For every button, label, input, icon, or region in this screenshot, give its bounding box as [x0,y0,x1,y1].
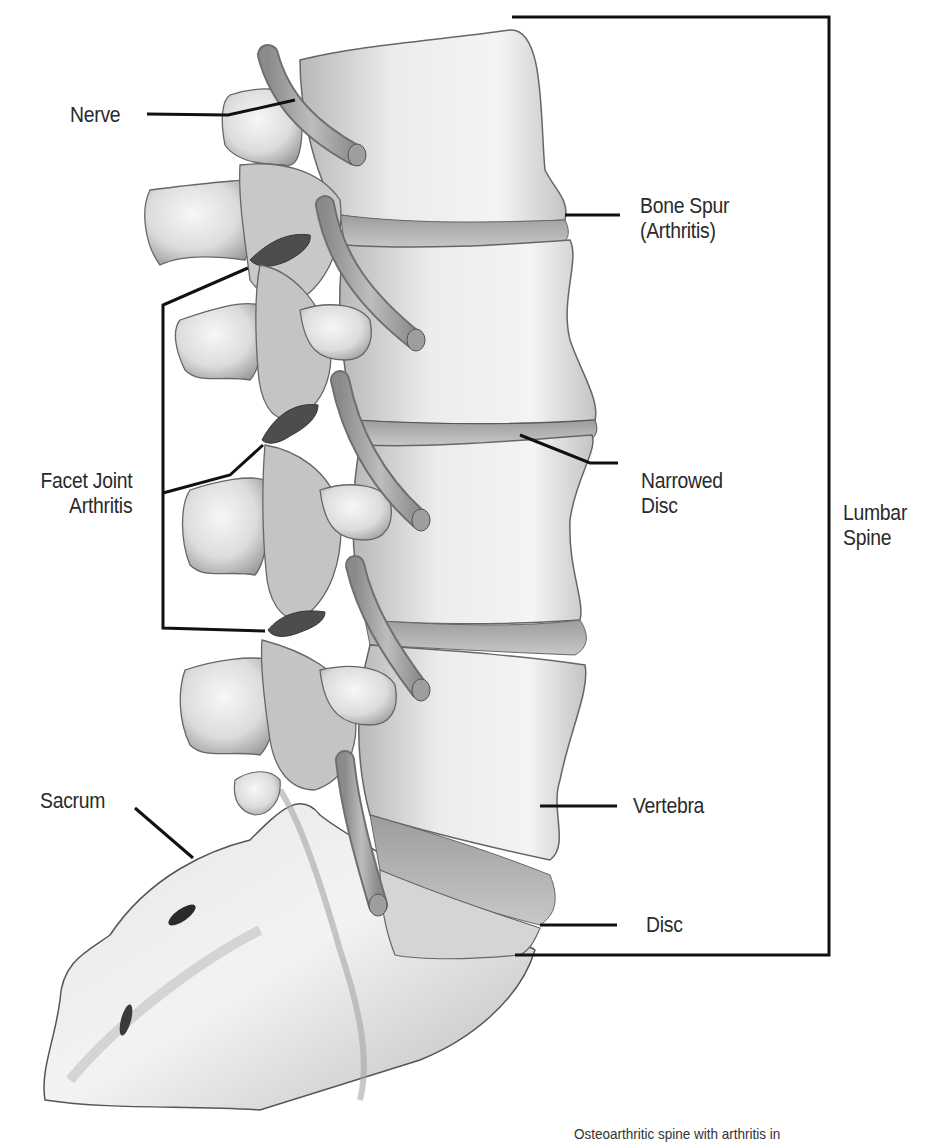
label-lumbar-spine-line2: Spine [843,525,907,550]
label-sacrum: Sacrum [40,788,105,813]
sacrum-leader [135,808,193,858]
label-lumbar-spine-line1: Lumbar [843,500,907,525]
label-narrowed-disc-line1: Narrowed [641,468,723,493]
label-narrowed-disc-line2: Disc [641,493,723,518]
label-bone-spur-line2: (Arthritis) [640,218,729,243]
label-vertebra: Vertebra [633,793,704,818]
label-nerve: Nerve [70,102,120,127]
label-disc: Disc [646,912,683,937]
label-lumbar-spine: Lumbar Spine [843,500,907,550]
label-facet-joint-line1: Facet Joint [40,468,132,493]
label-bone-spur-line1: Bone Spur [640,193,729,218]
figure-caption: Osteoarthritic spine with arthritis in [574,1125,780,1142]
label-narrowed-disc: Narrowed Disc [641,468,723,518]
label-facet-joint-line2: Arthritis [40,493,132,518]
label-bone-spur: Bone Spur (Arthritis) [640,193,729,243]
label-facet-joint-arthritis: Facet Joint Arthritis [40,468,132,518]
